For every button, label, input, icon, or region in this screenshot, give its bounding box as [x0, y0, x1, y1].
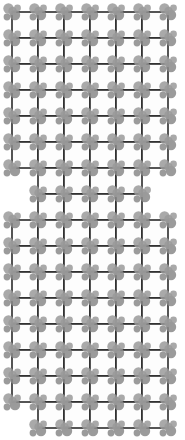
- blob-dot: [82, 430, 89, 437]
- blob-cluster: [133, 55, 151, 72]
- blob-dot: [160, 222, 167, 229]
- blob-cluster: [107, 81, 125, 98]
- blob-dot: [138, 319, 146, 327]
- blob-cluster: [107, 29, 125, 46]
- blob-cluster: [55, 393, 73, 410]
- blob-dot: [8, 345, 16, 353]
- blob-dot: [112, 267, 120, 275]
- blob-dot: [34, 215, 42, 223]
- blob-cluster: [29, 211, 47, 228]
- blob-dot: [60, 137, 68, 145]
- blob-cluster: [81, 185, 99, 202]
- blob-dot: [164, 345, 172, 353]
- blob-cluster: [107, 237, 125, 254]
- blob-dot: [134, 326, 141, 333]
- blob-dot: [60, 241, 68, 249]
- blob-cluster: [29, 263, 47, 280]
- blob-dot: [138, 7, 146, 15]
- blob-dot: [160, 404, 167, 411]
- blob-dot: [134, 248, 141, 255]
- blob-dot: [164, 85, 172, 93]
- blob-cluster: [55, 55, 73, 72]
- blob-cluster: [81, 367, 99, 384]
- blob-dot: [134, 300, 141, 307]
- blob-dot: [86, 137, 94, 145]
- blob-cluster: [159, 367, 177, 384]
- blob-dot: [134, 92, 141, 99]
- blob-cluster: [29, 159, 47, 176]
- blob-cluster: [133, 185, 151, 202]
- blob-dot: [164, 137, 172, 145]
- blob-cluster: [81, 315, 99, 332]
- blob-cluster: [133, 393, 151, 410]
- blob-cluster: [55, 263, 73, 280]
- blob-cluster: [81, 55, 99, 72]
- blob-cluster: [55, 315, 73, 332]
- blob-dot: [30, 430, 37, 437]
- blob-dot: [108, 404, 115, 411]
- blob-dot: [8, 319, 16, 327]
- blob-dot: [86, 111, 94, 119]
- blob-dot: [60, 267, 68, 275]
- blob-dot: [138, 371, 146, 379]
- blob-cluster: [55, 419, 73, 436]
- blob-dot: [112, 7, 120, 15]
- blob-dot: [138, 137, 146, 145]
- blob-dot: [8, 215, 16, 223]
- blob-cluster: [29, 393, 47, 410]
- blob-cluster: [29, 315, 47, 332]
- blob-dot: [164, 241, 172, 249]
- blob-dot: [30, 248, 37, 255]
- blob-cluster: [3, 315, 21, 332]
- blob-cluster: [107, 107, 125, 124]
- blob-dot: [112, 345, 120, 353]
- blob-cluster: [81, 237, 99, 254]
- blob-dot: [160, 430, 167, 437]
- blob-cluster: [29, 419, 47, 436]
- blob-cluster: [107, 315, 125, 332]
- blob-dot: [108, 274, 115, 281]
- blob-cluster: [29, 55, 47, 72]
- blob-dot: [82, 352, 89, 359]
- blob-dot: [60, 111, 68, 119]
- blob-dot: [60, 7, 68, 15]
- blob-dot: [8, 7, 16, 15]
- blob-cluster: [81, 159, 99, 176]
- blob-dot: [56, 144, 63, 151]
- blob-cluster: [133, 263, 151, 280]
- blob-cluster: [3, 263, 21, 280]
- blob-cluster: [107, 289, 125, 306]
- blob-cluster: [81, 211, 99, 228]
- blob-dot: [86, 33, 94, 41]
- blob-cluster: [55, 29, 73, 46]
- blob-cluster: [159, 393, 177, 410]
- blob-dot: [82, 92, 89, 99]
- blob-cluster: [29, 3, 47, 20]
- blob-dot: [34, 293, 42, 301]
- blob-dot: [60, 397, 68, 405]
- blob-dot: [56, 170, 63, 177]
- blob-dot: [8, 85, 16, 93]
- blob-dot: [82, 326, 89, 333]
- blob-cluster: [55, 237, 73, 254]
- blob-dot: [86, 189, 94, 197]
- blob-dot: [86, 241, 94, 249]
- blob-dot: [112, 59, 120, 67]
- blob-cluster: [55, 185, 73, 202]
- blob-cluster: [133, 81, 151, 98]
- blob-cluster: [29, 81, 47, 98]
- blob-dot: [138, 345, 146, 353]
- blob-dot: [60, 293, 68, 301]
- blob-dot: [86, 85, 94, 93]
- blob-dot: [160, 378, 167, 385]
- blob-dot: [34, 397, 42, 405]
- blob-dot: [86, 163, 94, 171]
- blob-cluster: [81, 341, 99, 358]
- blob-dot: [138, 241, 146, 249]
- blob-cluster: [55, 107, 73, 124]
- blob-dot: [60, 319, 68, 327]
- blob-cluster: [3, 393, 21, 410]
- blob-dot: [34, 371, 42, 379]
- blob-dot: [108, 196, 115, 203]
- blob-cluster: [107, 211, 125, 228]
